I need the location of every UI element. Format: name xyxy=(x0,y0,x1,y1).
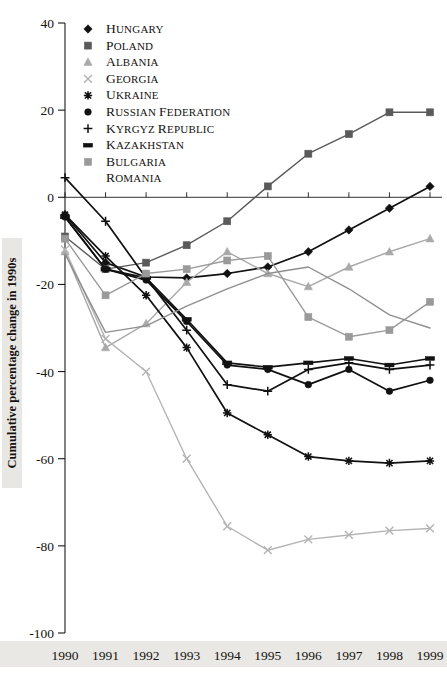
data-point-marker xyxy=(183,455,191,463)
data-point-marker xyxy=(84,58,92,66)
legend-item-kazakhstan[interactable]: KAZAKHSTAN xyxy=(83,137,184,152)
x-tick-label: 1993 xyxy=(173,648,200,663)
data-point-marker xyxy=(427,298,434,305)
data-point-marker xyxy=(182,317,191,321)
y-tick-label: -40 xyxy=(36,365,54,380)
data-point-marker xyxy=(345,333,352,340)
data-point-marker xyxy=(263,365,272,369)
legend-item-ukraine[interactable]: UKRAINE xyxy=(84,87,159,102)
data-point-marker xyxy=(386,109,393,116)
legend-item-albania[interactable]: ALBANIA xyxy=(84,54,159,69)
x-tick-label: 1996 xyxy=(295,648,322,663)
legend-item-label: UKRAINE xyxy=(106,87,159,102)
data-point-marker xyxy=(427,377,434,384)
data-point-marker xyxy=(84,25,92,33)
legend-item-label: ROMANIA xyxy=(106,170,162,185)
legend-item-hungary[interactable]: HUNGARY xyxy=(84,21,164,36)
data-point-marker xyxy=(85,109,92,116)
data-point-marker xyxy=(304,248,312,256)
data-point-marker xyxy=(143,270,150,277)
y-tick-label: -60 xyxy=(36,452,54,467)
data-point-marker xyxy=(223,409,231,417)
data-point-marker xyxy=(101,343,109,351)
y-tick-label: -20 xyxy=(36,277,54,292)
data-point-marker xyxy=(142,368,150,376)
x-tick-label: 1991 xyxy=(92,648,119,663)
data-point-marker xyxy=(264,253,271,260)
data-point-marker xyxy=(385,459,393,467)
x-tick-label: 1990 xyxy=(52,648,79,663)
data-point-marker xyxy=(101,252,109,260)
data-point-marker xyxy=(183,266,190,273)
data-point-marker xyxy=(345,226,353,234)
data-point-marker xyxy=(83,143,92,147)
legend-item-label: KYRGYZ REPUBLIC xyxy=(106,121,214,136)
data-point-marker xyxy=(223,247,231,255)
data-point-marker xyxy=(85,42,92,49)
data-point-marker xyxy=(427,109,434,116)
y-tick-label: -80 xyxy=(36,539,54,554)
chart-root: Cumulative percentage change in 1990s 40… xyxy=(0,0,447,681)
data-point-marker xyxy=(143,259,150,266)
line-chart-svg: 40200-20-40-60-80-100 199019911992199319… xyxy=(0,0,447,681)
legend: HUNGARYPOLANDALBANIAGEORGIAUKRAINERUSSIA… xyxy=(83,21,230,185)
data-point-marker xyxy=(84,124,93,133)
series-line xyxy=(65,186,430,278)
y-tick-labels: 40200-20-40-60-80-100 xyxy=(29,16,54,641)
data-point-marker xyxy=(386,327,393,334)
x-tick-label: 1999 xyxy=(417,648,444,663)
y-tick-label: 0 xyxy=(47,190,54,205)
legend-item-kyrgyz-republic[interactable]: KYRGYZ REPUBLIC xyxy=(84,121,215,136)
series-kyrgyz-republic xyxy=(61,173,435,395)
data-point-marker xyxy=(345,457,353,465)
data-point-marker xyxy=(345,131,352,138)
legend-item-romania[interactable]: ROMANIA xyxy=(106,170,162,185)
data-point-marker xyxy=(305,314,312,321)
data-point-marker xyxy=(223,522,231,530)
legend-item-poland[interactable]: POLAND xyxy=(85,38,154,53)
series-line xyxy=(65,239,430,337)
legend-item-label: POLAND xyxy=(106,38,153,53)
series-kazakhstan xyxy=(60,215,434,369)
x-tick-label: 1995 xyxy=(254,648,281,663)
data-point-marker xyxy=(426,457,434,465)
data-point-marker xyxy=(425,357,434,361)
data-point-marker xyxy=(60,215,69,219)
series-line xyxy=(65,112,430,269)
data-point-marker xyxy=(224,218,231,225)
series-romania xyxy=(65,254,430,332)
legend-item-georgia[interactable]: GEORGIA xyxy=(84,71,159,86)
data-point-marker xyxy=(102,335,110,343)
data-point-marker xyxy=(264,431,272,439)
legend-item-bulgaria[interactable]: BULGARIA xyxy=(85,154,167,169)
data-point-marker xyxy=(305,150,312,157)
data-point-marker xyxy=(386,388,393,395)
x-tick-label: 1998 xyxy=(376,648,403,663)
series-albania xyxy=(61,234,434,350)
y-tick-label: 20 xyxy=(41,103,55,118)
series-line xyxy=(65,250,430,551)
legend-item-label: BULGARIA xyxy=(106,154,166,169)
data-point-marker xyxy=(142,291,150,299)
data-point-marker xyxy=(264,183,271,190)
data-point-marker xyxy=(84,75,92,83)
data-point-marker xyxy=(305,381,312,388)
data-point-marker xyxy=(264,546,272,554)
data-point-marker xyxy=(85,158,92,165)
series-line xyxy=(65,217,430,367)
series-georgia xyxy=(61,246,434,554)
legend-item-label: RUSSIAN FEDERATION xyxy=(106,104,230,119)
x-tick-labels: 1990199119921993199419951996199719981999 xyxy=(52,648,444,663)
legend-item-label: HUNGARY xyxy=(106,21,164,36)
legend-item-russian-federation[interactable]: RUSSIAN FEDERATION xyxy=(85,104,231,119)
series-line xyxy=(65,254,430,332)
data-point-marker xyxy=(62,235,69,242)
y-tick-label: -100 xyxy=(29,626,54,641)
data-point-marker xyxy=(426,234,434,242)
data-point-marker xyxy=(101,267,110,271)
legend-item-label: GEORGIA xyxy=(106,71,159,86)
data-point-marker xyxy=(344,357,353,361)
data-point-marker xyxy=(385,204,393,212)
data-point-marker xyxy=(426,182,434,190)
data-point-marker xyxy=(223,361,232,365)
